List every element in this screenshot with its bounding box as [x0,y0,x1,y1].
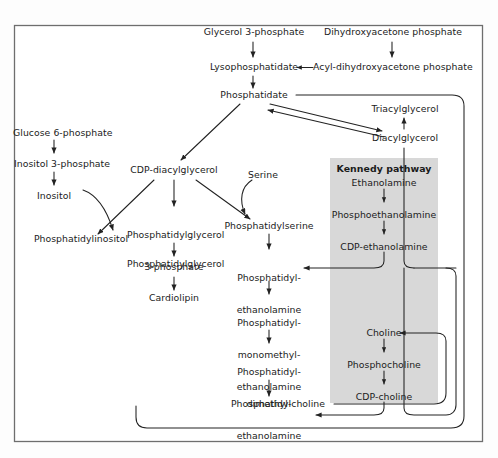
node-cdp-ethanolamine: CDP-ethanolamine [336,242,432,253]
pe-line-1: Phosphatidyl- [229,273,309,284]
pg3p-line-1: Phosphatidylglycerol [127,230,221,241]
label-kennedy-pathway: Kennedy pathway [336,164,432,175]
node-glycerol-3-phosphate: Glycerol 3-phosphate [196,27,312,38]
node-cardiolipin: Cardiolipin [145,293,203,304]
node-acyl-dihydroxyacetone-phosphate: Acyl-dihydroxyacetone phosphate [313,62,471,73]
node-inositol: Inositol [33,191,75,202]
node-inositol-3-phosphate: Inositol 3-phosphate [14,159,94,170]
pmme-line-1: Phosphatidyl- [229,318,309,329]
node-phosphatidylglycerol-3-phosphate: Phosphatidylglycerol 3-phosphate [127,209,221,294]
node-phosphatidylglycerol: Phosphatidylglycerol [127,259,221,270]
node-phosphatidylcholine: Phosphatidylcholine [227,399,329,410]
node-phosphoethanolamine: Phosphoethanolamine [331,210,437,221]
pdme-line-1: Phosphatidyl- [229,367,309,378]
node-cdp-choline: CDP-choline [347,392,421,403]
node-glucose-6-phosphate: Glucose 6-phosphate [13,128,95,139]
node-triacylglycerol: Triacylglycerol [369,104,441,115]
node-dihydroxyacetone-phosphate: Dihydroxyacetone phosphate [320,27,466,38]
node-serine: Serine [245,170,281,181]
diagram-canvas: Glycerol 3-phosphate Dihydroxyacetone ph… [0,0,498,458]
pdme-line-3: ethanolamine [229,431,309,442]
node-phosphatidylinositol: Phosphatidylinositol [29,234,133,245]
node-diacylglycerol: Diacylglycerol [369,133,441,144]
node-phosphatidate: Phosphatidate [213,90,295,101]
node-phosphatidylserine: Phosphatidylserine [222,221,316,232]
node-phosphocholine: Phosphocholine [343,360,425,371]
node-cdp-diacylglycerol: CDP-diacylglycerol [129,165,219,176]
node-choline: Choline [358,328,410,339]
node-ethanolamine: Ethanolamine [344,178,424,189]
node-lysophosphatidate: Lysophosphatidate [199,62,309,73]
